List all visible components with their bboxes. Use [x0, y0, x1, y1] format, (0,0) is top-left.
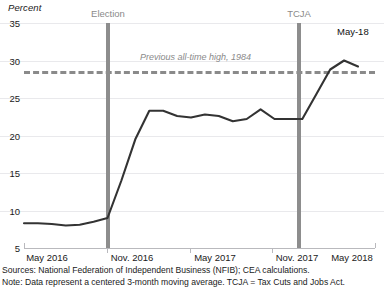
x-label-may-2018: May 2018	[331, 252, 373, 263]
x-tick-nov-2016	[107, 248, 108, 253]
x-label-nov-2017: Nov. 2017	[276, 252, 319, 263]
x-axis-right-cap	[375, 243, 376, 248]
x-axis-left-cap	[24, 243, 25, 248]
chart-figure: Percent 35 30 25 20 15 10 5 Previous all…	[0, 0, 384, 293]
series-polyline	[24, 61, 358, 226]
footnote-note: Note: Data represent a centered 3-month …	[2, 277, 382, 289]
footnote-sources: Sources: National Federation of Independ…	[2, 265, 382, 277]
chart-footnotes: Sources: National Federation of Independ…	[2, 265, 382, 288]
x-tick-may-2017	[190, 248, 191, 253]
annotation-may-18: May-18	[337, 26, 369, 37]
x-axis-line	[24, 248, 375, 249]
x-label-may-2017: May 2017	[194, 252, 236, 263]
data-series-line	[0, 0, 384, 293]
x-label-nov-2016: Nov. 2016	[111, 252, 154, 263]
x-tick-nov-2017	[272, 248, 273, 253]
x-label-may-2016: May 2016	[26, 252, 68, 263]
